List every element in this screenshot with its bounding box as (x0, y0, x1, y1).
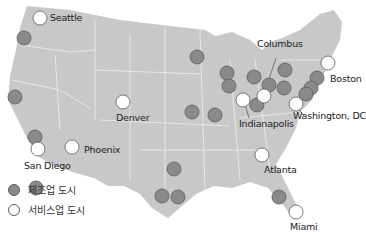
manufacturing-city-dot (278, 63, 292, 77)
manufacturing-city-dot (171, 190, 185, 204)
label-washington-dc: Washington, DC (293, 110, 366, 121)
service-city-dot (31, 142, 45, 156)
manufacturing-city-dot (17, 31, 31, 45)
manufacturing-city-dot (220, 66, 234, 80)
legend-service-label: 서비스업 도시 (28, 202, 85, 217)
label-atlanta: Atlanta (264, 164, 297, 175)
manufacturing-city-dot (8, 90, 22, 104)
manufacturing-city-dot (272, 190, 286, 204)
label-phoenix: Phoenix (84, 144, 120, 155)
legend-manufacturing: 제조업 도시 (8, 182, 76, 197)
manufacturing-city-dot (247, 70, 261, 84)
service-city-dot (33, 11, 47, 25)
manufacturing-city-dot (277, 81, 291, 95)
service-city-dot (116, 95, 130, 109)
label-miami: Miami (290, 221, 318, 232)
service-city-dot (321, 56, 335, 70)
legend-service: 서비스업 도시 (8, 202, 85, 217)
label-boston: Boston (330, 73, 362, 84)
service-swatch-icon (8, 204, 20, 216)
service-city-dot (289, 205, 303, 219)
label-denver: Denver (116, 112, 149, 123)
legend-manufacturing-label: 제조업 도시 (28, 182, 76, 197)
manufacturing-city-dot (208, 108, 222, 122)
manufacturing-city-dot (185, 105, 199, 119)
manufacturing-city-dot (190, 50, 204, 64)
label-san-diego: San Diego (24, 160, 71, 171)
manufacturing-city-dot (155, 189, 169, 203)
service-city-dot (255, 148, 269, 162)
manufacturing-city-dot (222, 79, 236, 93)
manufacturing-city-dot (167, 162, 181, 176)
service-city-dot (257, 89, 271, 103)
label-seattle: Seattle (50, 12, 82, 23)
manufacturing-swatch-icon (8, 184, 20, 196)
label-indianapolis: Indianapolis (239, 118, 294, 129)
label-columbus: Columbus (257, 38, 303, 49)
service-city-dot (65, 140, 79, 154)
service-city-dot (236, 93, 250, 107)
service-city-dot (289, 97, 303, 111)
